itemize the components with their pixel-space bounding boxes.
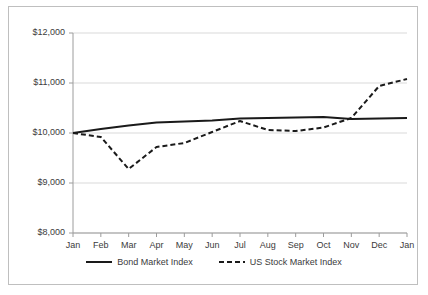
chart-frame: $12,000$11,000$10,000$9,000$8,000 JanFeb… <box>8 6 418 285</box>
x-axis-tick-label: Oct <box>309 240 339 250</box>
solid-line-icon <box>86 258 112 266</box>
series-lines <box>73 79 407 169</box>
y-axis-tick-label: $12,000 <box>19 27 65 37</box>
legend-entry[interactable]: US Stock Market Index <box>219 257 342 267</box>
legend-label: Bond Market Index <box>117 257 193 267</box>
x-axis-tick-label: Jan <box>392 240 422 250</box>
x-axis-tick-label: Jun <box>197 240 227 250</box>
x-axis-tick-label: Jul <box>225 240 255 250</box>
x-axis-tick-label: Feb <box>86 240 116 250</box>
chart-legend: Bond Market IndexUS Stock Market Index <box>0 257 428 267</box>
legend-entry[interactable]: Bond Market Index <box>86 257 193 267</box>
x-axis-ticks <box>73 233 407 237</box>
y-axis-tick-label: $11,000 <box>19 77 65 87</box>
x-axis-tick-label: Apr <box>142 240 172 250</box>
x-axis-tick-label: Jan <box>58 240 88 250</box>
x-axis-tick-label: Sep <box>281 240 311 250</box>
legend-label: US Stock Market Index <box>250 257 342 267</box>
x-axis-tick-label: Mar <box>114 240 144 250</box>
x-axis-tick-label: Nov <box>336 240 366 250</box>
series-line <box>73 117 407 133</box>
x-axis-tick-label: Aug <box>253 240 283 250</box>
x-axis-tick-label: May <box>169 240 199 250</box>
y-axis-tick-label: $8,000 <box>19 227 65 237</box>
dashed-line-icon <box>219 258 245 266</box>
y-axis-tick-label: $10,000 <box>19 127 65 137</box>
series-line <box>73 79 407 169</box>
y-axis-tick-label: $9,000 <box>19 177 65 187</box>
x-axis-tick-label: Dec <box>364 240 394 250</box>
gridlines <box>69 33 407 233</box>
